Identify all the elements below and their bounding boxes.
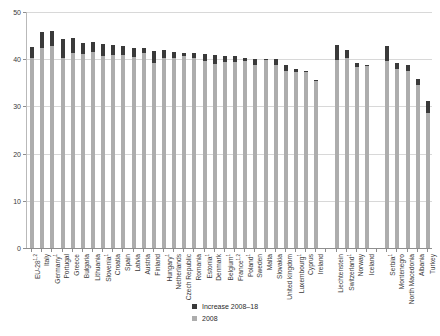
bar-segment-2008 [142, 53, 146, 248]
x-tick-mark [153, 248, 154, 252]
bar [335, 12, 339, 248]
x-tick-mark [427, 248, 428, 252]
x-tick-mark [396, 248, 397, 252]
bar [61, 12, 65, 248]
x-tick-mark [234, 248, 235, 252]
bar-segment-increase [172, 52, 176, 59]
bar-segment-2008 [365, 66, 369, 248]
bar [121, 12, 125, 248]
x-tick-mark [376, 248, 377, 252]
bar-segment-increase [30, 47, 34, 58]
y-tick-mark-10 [23, 201, 26, 202]
bar-segment-increase [192, 53, 196, 58]
x-tick-mark [41, 248, 42, 252]
bar [355, 12, 359, 248]
bar [395, 12, 399, 248]
bar-segment-2008 [40, 48, 44, 248]
bar [132, 12, 136, 248]
bar-segment-increase [294, 69, 298, 73]
bar-segment-2008 [152, 63, 156, 248]
bar-segment-increase [426, 101, 430, 113]
x-tick-mark [173, 248, 174, 252]
bar [243, 12, 247, 248]
x-tick-label-spain: Spain [125, 254, 132, 271]
bar-segment-2008 [182, 56, 186, 248]
x-tick-mark [204, 248, 205, 252]
bar-segment-increase [40, 32, 44, 49]
x-tick-mark [346, 248, 347, 252]
bar [81, 12, 85, 248]
bar-segment-increase [253, 59, 257, 66]
x-tick-mark [92, 248, 93, 252]
y-tick-mark-30 [23, 106, 26, 107]
y-tick-label-0: 0 [0, 245, 21, 252]
bar-segment-2008 [162, 58, 166, 248]
legend-item-increase: Increase 2008–18 [192, 303, 258, 310]
bar [294, 12, 298, 248]
bar-segment-increase [284, 65, 288, 71]
bar-segment-2008 [172, 58, 176, 248]
bar [142, 12, 146, 248]
x-tick-label-lithuania: Lithuania [95, 254, 102, 281]
x-tick-label-greece: Greece [74, 254, 81, 276]
bar-segment-2008 [203, 61, 207, 248]
x-tick-label-luxembourg: Luxembourg1 [298, 254, 306, 293]
bar [406, 12, 410, 248]
x-tick-mark [295, 248, 296, 252]
bar [274, 12, 278, 248]
x-tick-mark [51, 248, 52, 252]
bar-segment-increase [355, 63, 359, 67]
bar-segment-2008 [61, 58, 65, 248]
y-tick-mark-20 [23, 154, 26, 155]
x-tick-mark [133, 248, 134, 252]
x-tick-label-sweden: Sweden [257, 254, 264, 278]
x-tick-label-finland: Finland [155, 254, 162, 276]
bar-segment-2008 [101, 56, 105, 248]
legend-label-increase: Increase 2008–18 [202, 303, 258, 310]
bar-segment-2008 [274, 65, 278, 248]
bar-segment-2008 [284, 71, 288, 248]
x-tick-mark [82, 248, 83, 252]
bar-segment-2008 [314, 80, 318, 248]
bar-segment-increase [142, 48, 146, 53]
y-tick-label-30: 30 [0, 103, 21, 110]
bar-segment-2008 [121, 55, 125, 248]
x-tick-mark [275, 248, 276, 252]
x-tick-label-poland: Poland1 [247, 254, 255, 277]
x-tick-label-north-macedonia: North Macedonia [409, 254, 416, 304]
bar-segment-increase [91, 42, 95, 51]
bar-segment-2008 [71, 53, 75, 248]
bar [111, 12, 115, 248]
bar [40, 12, 44, 248]
x-tick-mark [224, 248, 225, 252]
bar-segment-2008 [243, 61, 247, 248]
x-tick-mark [336, 248, 337, 252]
bar-segment-2008 [91, 52, 95, 248]
bars-group [27, 12, 432, 248]
x-tick-mark [407, 248, 408, 252]
bar-segment-2008 [223, 62, 227, 248]
x-tick-label-switzerland: Switzerland1 [348, 254, 356, 291]
bar-segment-increase [274, 59, 278, 65]
x-tick-mark [102, 248, 103, 252]
bar-segment-increase [50, 31, 54, 46]
bar [152, 12, 156, 248]
bar [385, 12, 389, 248]
x-tick-label-belgium: Belgium1 [227, 254, 235, 280]
legend-swatch-2008 [192, 316, 197, 321]
y-tick-label-10: 10 [0, 198, 21, 205]
x-axis-line [26, 248, 432, 249]
x-tick-label-united-kingdom: United kingdom [287, 254, 294, 300]
x-tick-label-estonia: Estonia1 [206, 254, 214, 279]
bar [101, 12, 105, 248]
x-tick-label-serbia: Serbia1 [389, 254, 397, 276]
x-tick-mark [62, 248, 63, 252]
bar-segment-increase [243, 58, 247, 61]
bar-segment-2008 [294, 72, 298, 248]
x-tick-label-austria: Austria [145, 254, 152, 275]
x-tick-label-croatia: Croatia [115, 254, 122, 275]
bar-segment-2008 [416, 85, 420, 248]
bar [253, 12, 257, 248]
bar-segment-increase [132, 48, 136, 57]
bar-segment-increase [61, 39, 65, 58]
